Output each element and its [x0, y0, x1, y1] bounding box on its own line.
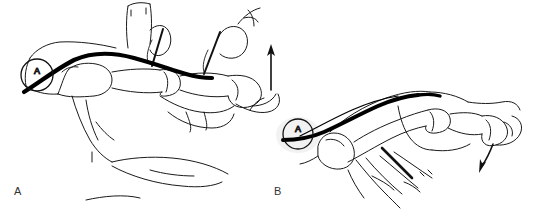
graft-marker-label-b: A [295, 124, 301, 134]
panel-label-b: B [274, 186, 282, 197]
panel-label-a: A [14, 186, 22, 197]
figure-background [0, 0, 536, 218]
figure-container: A [0, 0, 536, 218]
graft-marker-label-a: A [34, 66, 40, 76]
surgical-illustration: A [0, 0, 536, 218]
tendon-graft-distal-b [418, 94, 440, 96]
